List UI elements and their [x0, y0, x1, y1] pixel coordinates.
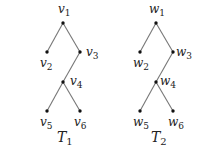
- node-v1: [61, 21, 64, 24]
- edge-v1-v2: [47, 23, 63, 52]
- tree-title-T2: T2: [151, 129, 167, 147]
- edge-w1-w2: [140, 23, 156, 52]
- node-label-w1: w1: [149, 2, 165, 18]
- node-label-w2: w2: [133, 56, 149, 72]
- node-v2: [45, 50, 48, 53]
- edge-v4-v5: [47, 82, 63, 111]
- edge-v1-v3: [63, 23, 80, 52]
- node-label-w6: w6: [168, 115, 184, 131]
- nodes: [45, 21, 174, 112]
- node-v5: [45, 109, 48, 112]
- edge-w4-w5: [140, 82, 156, 111]
- node-label-w4: w4: [160, 74, 176, 90]
- node-v4: [61, 80, 64, 83]
- node-label-w3: w3: [176, 45, 192, 61]
- edges: [47, 23, 173, 111]
- node-w6: [171, 109, 174, 112]
- node-w1: [154, 21, 157, 24]
- node-label-v2: v2: [40, 56, 53, 72]
- node-w5: [138, 109, 141, 112]
- node-label-v6: v6: [74, 115, 87, 131]
- node-v3: [78, 50, 81, 53]
- node-label-v5: v5: [40, 115, 53, 131]
- node-w3: [171, 50, 174, 53]
- node-label-v4: v4: [70, 74, 83, 90]
- node-label-v1: v1: [58, 2, 71, 18]
- node-label-v3: v3: [86, 45, 99, 61]
- node-label-w5: w5: [133, 115, 149, 131]
- tree-title-T1: T1: [57, 129, 73, 147]
- node-w2: [138, 50, 141, 53]
- edge-w1-w3: [156, 23, 173, 52]
- node-w4: [154, 80, 157, 83]
- node-v6: [78, 109, 81, 112]
- tree-diagram: v1v2v3v4v5v6T1w1w2w3w4w5w6T2: [0, 0, 201, 154]
